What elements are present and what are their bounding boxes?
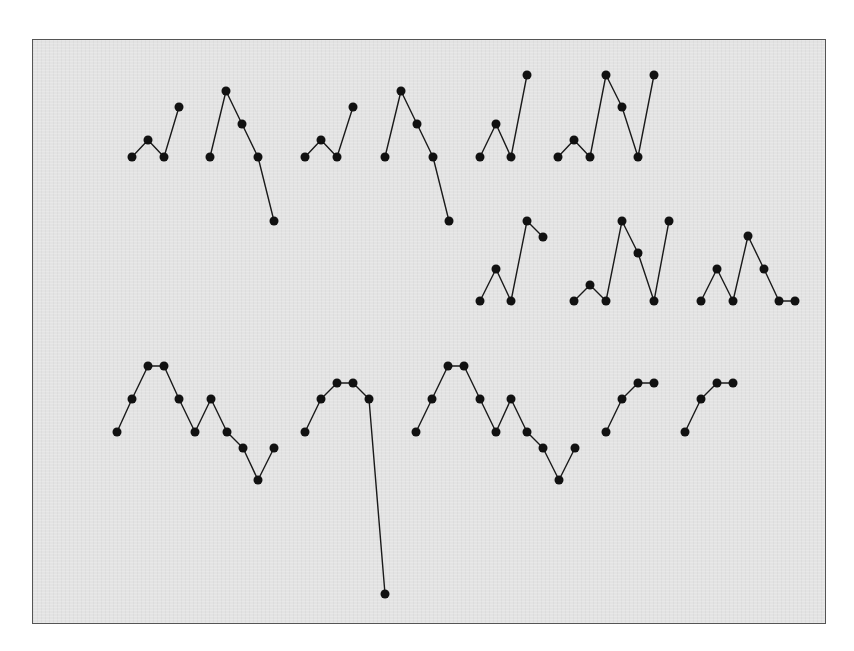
sequence-dot <box>618 395 627 404</box>
sequence-dot <box>317 136 326 145</box>
sequence-dot <box>507 395 516 404</box>
sequence-dot <box>492 265 501 274</box>
sequence-dot <box>254 153 263 162</box>
sequence-row3-seq5 <box>681 379 738 437</box>
sequence-dot <box>239 444 248 453</box>
sequence-row3-seq2 <box>301 379 390 599</box>
sequence-dot <box>713 265 722 274</box>
sequence-dot <box>238 120 247 129</box>
sequence-dot <box>349 103 358 112</box>
sequence-dot <box>650 71 659 80</box>
sequence-dot <box>729 297 738 306</box>
sequence-dot <box>223 428 232 437</box>
sequence-dot <box>444 362 453 371</box>
sequence-row2-seq3 <box>697 232 800 306</box>
sequence-line <box>305 383 385 594</box>
sequence-dot <box>397 87 406 96</box>
sequence-dot <box>539 444 548 453</box>
sequence-line <box>416 366 575 480</box>
sequence-dot <box>160 362 169 371</box>
sequence-dot <box>333 379 342 388</box>
sequence-dot <box>507 153 516 162</box>
sequence-dot <box>634 249 643 258</box>
sequence-dot <box>333 153 342 162</box>
sequence-dot <box>160 153 169 162</box>
sequence-dot <box>175 395 184 404</box>
sequence-dot <box>665 217 674 226</box>
sequence-dot <box>539 233 548 242</box>
sequence-dot <box>206 153 215 162</box>
sequence-dot <box>175 103 184 112</box>
sequence-dot <box>349 379 358 388</box>
sequence-dot <box>381 590 390 599</box>
figure-canvas <box>0 0 854 651</box>
sequence-dot <box>713 379 722 388</box>
sequence-dot <box>413 120 422 129</box>
sequence-line <box>558 75 654 157</box>
sequence-dot <box>270 444 279 453</box>
sequence-row1-seq6 <box>554 71 659 162</box>
sequence-row2-seq2 <box>570 217 674 306</box>
sequence-dot <box>128 395 137 404</box>
sequence-dot <box>412 428 421 437</box>
sequence-dot <box>301 428 310 437</box>
sequence-dot <box>492 120 501 129</box>
sequence-dot <box>144 136 153 145</box>
sequence-dot <box>507 297 516 306</box>
sequence-line <box>685 383 733 432</box>
sequence-line <box>210 91 274 221</box>
sequence-dot <box>191 428 200 437</box>
sequence-dot <box>476 153 485 162</box>
sequence-diagram <box>0 0 854 651</box>
sequence-dot <box>775 297 784 306</box>
sequence-row2-seq1 <box>476 217 548 306</box>
sequence-row3-seq3 <box>412 362 580 485</box>
sequence-dot <box>554 153 563 162</box>
sequence-dot <box>729 379 738 388</box>
sequence-line <box>480 75 527 157</box>
sequence-line <box>606 383 654 432</box>
sequence-dot <box>128 153 137 162</box>
sequence-dot <box>523 71 532 80</box>
sequence-dot <box>570 297 579 306</box>
sequence-dot <box>586 153 595 162</box>
sequence-dot <box>270 217 279 226</box>
sequence-dot <box>381 153 390 162</box>
sequence-dot <box>429 153 438 162</box>
sequence-dot <box>602 297 611 306</box>
sequence-dot <box>744 232 753 241</box>
sequence-dot <box>791 297 800 306</box>
sequence-row3-seq1 <box>113 362 279 485</box>
sequence-dot <box>113 428 122 437</box>
sequence-dot <box>760 265 769 274</box>
sequence-line <box>132 107 179 157</box>
sequence-dot <box>570 136 579 145</box>
sequence-dot <box>555 476 564 485</box>
sequence-line <box>480 221 543 301</box>
sequence-dot <box>571 444 580 453</box>
sequence-dot <box>207 395 216 404</box>
sequence-dot <box>492 428 501 437</box>
sequence-dot <box>618 103 627 112</box>
sequence-line <box>305 107 353 157</box>
sequence-dot <box>634 379 643 388</box>
sequence-dot <box>681 428 690 437</box>
sequence-dot <box>650 297 659 306</box>
sequence-dot <box>602 71 611 80</box>
sequence-row1-seq1 <box>128 103 184 162</box>
sequence-dot <box>697 395 706 404</box>
sequence-dot <box>222 87 231 96</box>
sequence-dot <box>460 362 469 371</box>
sequence-dot <box>301 153 310 162</box>
sequence-row1-seq2 <box>206 87 279 226</box>
sequence-row1-seq5 <box>476 71 532 162</box>
sequence-dot <box>365 395 374 404</box>
sequence-dot <box>650 379 659 388</box>
sequence-line <box>385 91 449 221</box>
sequence-dot <box>476 395 485 404</box>
sequence-dot <box>618 217 627 226</box>
sequence-dot <box>602 428 611 437</box>
sequence-row3-seq4 <box>602 379 659 437</box>
sequence-dot <box>317 395 326 404</box>
sequence-dot <box>476 297 485 306</box>
